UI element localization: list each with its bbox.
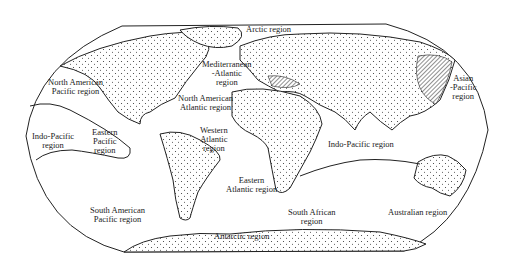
label-indo-pacific-region-east: Indo-Pacific region — [328, 140, 394, 149]
antarctica — [124, 229, 426, 252]
label-mediterranean-atlantic-region: Mediterranean -Atlantic region — [202, 60, 252, 87]
label-australian-region: Australian region — [388, 208, 447, 217]
label-antarctic-region: Antarctic region — [214, 232, 269, 241]
label-western-atlantic-region: Western Atlantic region — [200, 126, 228, 153]
label-indo-pacific-region-west: Indo-Pacific region — [32, 132, 74, 150]
label-north-american-pacific-region: North American Pacific region — [48, 78, 103, 96]
label-asian-pacific-region: Asian -Pacific region — [450, 74, 476, 101]
label-north-american-atlantic-region: North American Atlantic region — [178, 94, 233, 112]
label-eastern-pacific-region: Eastern Pacific region — [92, 128, 118, 155]
label-south-american-pacific-region: South American Pacific region — [90, 206, 145, 224]
southern-boundary — [300, 160, 420, 177]
australia — [414, 155, 466, 196]
label-south-african-region: South African region — [288, 208, 335, 226]
label-arctic-region: Arctic region — [246, 25, 291, 34]
label-eastern-atlantic-region: Eastern Atlantic region — [226, 176, 277, 194]
